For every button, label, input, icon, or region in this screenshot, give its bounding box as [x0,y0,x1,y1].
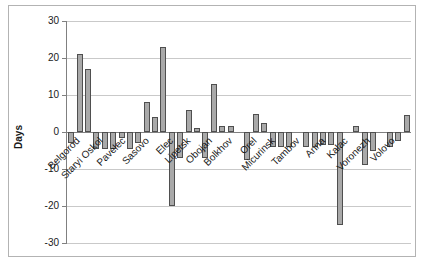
y-tick-label: 20 [23,52,59,64]
y-tick-mark [62,21,66,22]
y-tick-mark [62,243,66,244]
bar [186,110,192,132]
bar [261,123,267,132]
bar [353,126,359,132]
bar [152,117,158,132]
plot-area: 3020100-10-20-30BelgorodStaryi OskolPave… [67,21,411,243]
y-tick-mark [62,206,66,207]
bar [228,126,234,132]
y-tick-label: 0 [23,126,59,138]
y-tick-label: -20 [23,200,59,212]
gridline [67,169,411,170]
bar [144,102,150,132]
bar [395,132,401,141]
y-tick-label: 10 [23,89,59,101]
y-tick-mark [62,58,66,59]
bar [219,126,225,132]
screenshot-root: Days 3020100-10-20-30BelgorodStaryi Osko… [0,0,424,268]
gridline [67,95,411,96]
bar [404,115,410,132]
y-tick-label: -30 [23,237,59,249]
gridline [67,58,411,59]
bar [211,84,217,132]
chart-frame: Days 3020100-10-20-30BelgorodStaryi Osko… [8,5,416,257]
y-tick-mark [62,95,66,96]
bar [253,114,259,133]
gridline [67,21,411,22]
gridline [67,243,411,244]
bar [194,128,200,132]
y-tick-label: 30 [23,15,59,27]
gridline [67,206,411,207]
y-axis-title: Days [13,117,24,157]
y-tick-mark [62,132,66,133]
bar [85,69,91,132]
bar [77,54,83,132]
bar [160,47,166,132]
